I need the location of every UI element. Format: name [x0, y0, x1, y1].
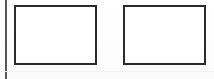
placeholder-frame-2-content — [125, 7, 204, 63]
placeholder-frame-1 — [14, 5, 97, 65]
placeholder-frame-1-content — [16, 7, 95, 63]
placeholder-frame-2 — [123, 5, 206, 65]
bottom-scan-line — [0, 71, 214, 72]
left-margin-rule — [5, 0, 7, 79]
figure-canvas — [0, 0, 214, 79]
